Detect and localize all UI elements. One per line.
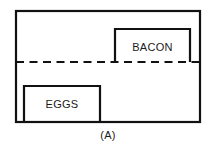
figure-caption: (A) xyxy=(100,129,115,141)
page-background xyxy=(0,0,216,149)
bacon-box-label: BACON xyxy=(132,41,173,53)
figure-drawing: BACON EGGS (A) xyxy=(0,0,216,149)
figure-container: BACON EGGS (A) xyxy=(0,0,216,149)
eggs-box-label: EGGS xyxy=(46,98,79,110)
